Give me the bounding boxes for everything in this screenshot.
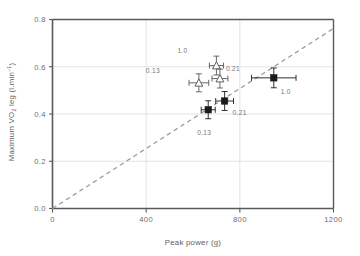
scatter-plot: 0.00.20.40.60.8040080012000.131.00.210.1… [0,0,360,256]
data-point-filled-square-1.0[interactable]: 1.0 [252,68,296,95]
y-tick-label-0.6: 0.6 [34,63,46,72]
point-label-1.0: 1.0 [281,88,291,95]
identity-dashed-line [53,28,334,208]
x-tick-label-800: 800 [233,215,247,224]
marker-square-filled [205,107,211,113]
point-label-0.21: 0.21 [226,65,240,72]
y-tick-label-0.0: 0.0 [34,204,46,213]
data-point-open-triangle-1.0[interactable]: 1.0 [177,47,223,75]
x-axis-title: Peak power (g) [165,238,222,247]
point-label-1.0: 1.0 [177,47,187,54]
y-tick-label-0.2: 0.2 [34,157,46,166]
y-tick-label-0.8: 0.8 [34,15,46,24]
data-point-filled-square-0.13[interactable]: 0.13 [197,101,215,136]
marker-square-filled [271,75,277,81]
data-point-open-triangle-0.13[interactable]: 0.13 [146,67,209,92]
data-point-filled-square-0.21[interactable]: 0.21 [216,92,247,116]
point-label-0.13: 0.13 [197,129,211,136]
point-label-0.13: 0.13 [146,67,160,74]
marker-square-filled [221,98,227,104]
x-tick-label-1200: 1200 [324,215,343,224]
y-tick-label-0.4: 0.4 [34,110,46,119]
point-label-0.21: 0.21 [233,109,247,116]
chart-container: 0.00.20.40.60.8040080012000.131.00.210.1… [0,0,360,256]
x-tick-label-400: 400 [139,215,153,224]
x-tick-label-0: 0 [50,215,55,224]
y-axis-title: Maximum VO2 leg (l.min−1) [6,63,16,162]
